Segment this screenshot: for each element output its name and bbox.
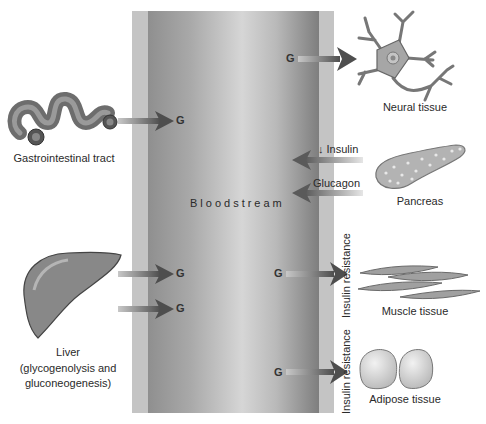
liver-sublabel-1: (glycogenolysis and <box>8 362 128 374</box>
gi-tract-icon <box>8 95 128 155</box>
pancreas-icon <box>372 143 472 191</box>
insulin-resistance-muscle-label: Insulin resistance <box>340 233 352 318</box>
arrow-blood-to-neural <box>298 47 357 71</box>
arrow-blood-to-muscle <box>286 262 348 286</box>
glucose-label-liver-1: G <box>176 267 185 279</box>
glucose-label-muscle: G <box>274 267 283 279</box>
glucagon-label: Glucagon <box>313 177 360 189</box>
neuron-icon <box>355 8 465 103</box>
liver-sublabel-2: gluconeogenesis) <box>8 377 128 389</box>
muscle-tissue-label: Muscle tissue <box>365 305 465 317</box>
glucose-label-neural: G <box>286 52 295 64</box>
glucose-label-gi: G <box>176 114 185 126</box>
insulin-resistance-adipose-label: Insulin resistance <box>340 329 352 414</box>
adipose-icon <box>356 346 436 394</box>
gi-tract-label: Gastrointestinal tract <box>4 152 124 164</box>
neural-tissue-label: Neural tissue <box>365 101 465 113</box>
glucose-label-liver-2: G <box>176 302 185 314</box>
liver-icon <box>18 250 128 340</box>
adipose-tissue-label: Adipose tissue <box>355 393 455 405</box>
pancreas-label: Pancreas <box>370 195 470 207</box>
insulin-label: ↓ Insulin <box>318 143 358 155</box>
arrow-blood-to-adipose <box>286 360 348 384</box>
liver-label: Liver <box>8 346 128 358</box>
glucose-label-adipose: G <box>274 366 283 378</box>
